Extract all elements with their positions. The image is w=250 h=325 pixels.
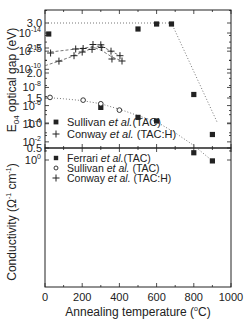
dotted-guide-line <box>45 23 217 122</box>
plus-marker <box>53 131 60 138</box>
plus-marker <box>55 58 62 65</box>
bottom-y-tick-label: 10-14 <box>19 26 41 39</box>
plus-marker <box>72 46 79 53</box>
square-marker <box>54 120 59 125</box>
bottom-y-axis-label: Conductivity (Ω-1 cm-1) <box>5 163 19 280</box>
circle-marker <box>81 98 86 103</box>
square-marker <box>210 132 215 137</box>
optical-gap-panel: 0.51.01.52.02.53.0Sullivan et al.(TAC)Co… <box>27 10 231 154</box>
square-marker <box>154 21 159 26</box>
x-tick-label: 200 <box>73 291 91 303</box>
svg-text:Sullivan et al.(TAC): Sullivan et al.(TAC) <box>67 116 161 128</box>
bottom-y-tick-label: 10-6 <box>23 99 42 112</box>
bottom-y-tick-label: 100 <box>25 153 41 166</box>
plus-marker <box>80 45 87 52</box>
circle-marker <box>48 95 53 100</box>
plus-marker <box>71 52 78 59</box>
plus-marker <box>47 50 54 57</box>
plus-marker <box>89 46 96 53</box>
x-tick-label: 1000 <box>219 291 243 303</box>
svg-text:Conway et al. (TAC:H): Conway et al. (TAC:H) <box>67 128 176 140</box>
square-marker <box>135 26 140 31</box>
square-marker <box>210 158 215 163</box>
x-tick-label: 400 <box>110 291 128 303</box>
square-marker <box>54 156 58 160</box>
circle-marker <box>117 108 122 113</box>
top-legend-item: Conway et al. (TAC:H) <box>53 128 177 140</box>
plus-marker <box>108 48 115 55</box>
x-tick-label: 800 <box>185 291 203 303</box>
square-marker <box>135 115 140 120</box>
bottom-y-tick-label: 10-12 <box>19 44 41 57</box>
plus-marker <box>108 56 115 63</box>
plus-marker <box>53 175 60 182</box>
annealing-figure: 0.51.01.52.02.53.0Sullivan et al.(TAC)Co… <box>0 0 250 325</box>
square-marker <box>46 31 51 36</box>
square-marker <box>191 150 196 155</box>
circle-marker <box>98 101 103 106</box>
top-y-axis-label: E04 optical gap (eV) <box>5 28 21 132</box>
plus-marker <box>79 49 86 56</box>
svg-text:Conway et al. (TAC:H): Conway et al. (TAC:H) <box>67 172 171 184</box>
bottom-legend-item: Conway et al. (TAC:H) <box>53 172 172 184</box>
x-tick-label: 600 <box>147 291 165 303</box>
x-axis-label: Annealing temperature (oC) <box>65 305 210 319</box>
conductivity-panel: 10010-210-410-610-810-1010-1210-14020040… <box>19 26 244 303</box>
square-marker <box>169 21 174 26</box>
square-marker <box>191 92 196 97</box>
square-marker <box>154 118 159 123</box>
circle-marker <box>54 166 58 170</box>
x-tick-label: 0 <box>42 291 48 303</box>
